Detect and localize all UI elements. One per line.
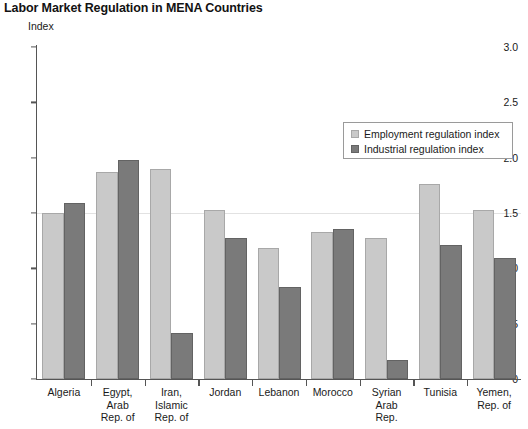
x-axis-category-label: Algeria bbox=[37, 386, 91, 399]
bar bbox=[333, 229, 355, 380]
bar bbox=[419, 184, 441, 379]
x-axis-category-label: Yemen, Rep. of bbox=[467, 386, 521, 411]
x-axis-category-label: Morocco bbox=[306, 386, 360, 399]
x-axis-category-label: Egypt, Arab Rep. of bbox=[91, 386, 145, 424]
bar bbox=[473, 210, 495, 379]
y-axis-tick-label: 2.5 bbox=[503, 96, 518, 108]
bar bbox=[150, 169, 172, 379]
bar bbox=[171, 333, 193, 379]
page-title: Labor Market Regulation in MENA Countrie… bbox=[4, 1, 263, 15]
y-axis-tick-label: 3.0 bbox=[503, 41, 518, 53]
bar bbox=[440, 245, 462, 379]
legend-swatch-icon bbox=[351, 130, 359, 138]
y-axis-label: Index bbox=[28, 20, 54, 32]
x-axis-line bbox=[36, 379, 521, 380]
y-axis-tick-label: 1.5 bbox=[503, 207, 518, 219]
legend-label: Employment regulation index bbox=[364, 128, 499, 140]
bar bbox=[96, 172, 118, 379]
x-axis-category-label: Lebanon bbox=[252, 386, 306, 399]
bar bbox=[42, 213, 64, 379]
chart-container: Labor Market Regulation in MENA Countrie… bbox=[0, 0, 528, 429]
legend-item-employment-regulation-index: Employment regulation index bbox=[351, 128, 499, 140]
bar bbox=[118, 160, 140, 379]
x-axis-category-label: Iran, Islamic Rep. of bbox=[145, 386, 199, 424]
legend-label: Industrial regulation index bbox=[364, 143, 484, 155]
legend-item-industrial-regulation-index: Industrial regulation index bbox=[351, 143, 484, 155]
bar bbox=[64, 203, 86, 379]
bar bbox=[387, 360, 409, 379]
bar bbox=[365, 238, 387, 379]
legend: Employment regulation index Industrial r… bbox=[343, 122, 513, 159]
bar bbox=[279, 287, 301, 379]
legend-swatch-icon bbox=[351, 145, 359, 153]
y-axis-line bbox=[36, 45, 37, 380]
x-axis-category-label: Jordan bbox=[198, 386, 252, 399]
x-axis-category-label: Syrian Arab Rep. bbox=[360, 386, 414, 424]
bar bbox=[258, 248, 280, 379]
bar bbox=[311, 232, 333, 379]
x-axis-category-label: Tunisia bbox=[413, 386, 467, 399]
bar bbox=[494, 258, 516, 379]
bar bbox=[204, 210, 226, 379]
bar bbox=[225, 238, 247, 379]
